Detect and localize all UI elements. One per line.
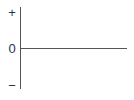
negative-label: − [7, 79, 17, 92]
zero-baseline [20, 48, 127, 49]
signed-axis-diagram: + 0 − [0, 0, 134, 100]
zero-label: 0 [7, 42, 17, 55]
positive-label: + [7, 6, 17, 19]
